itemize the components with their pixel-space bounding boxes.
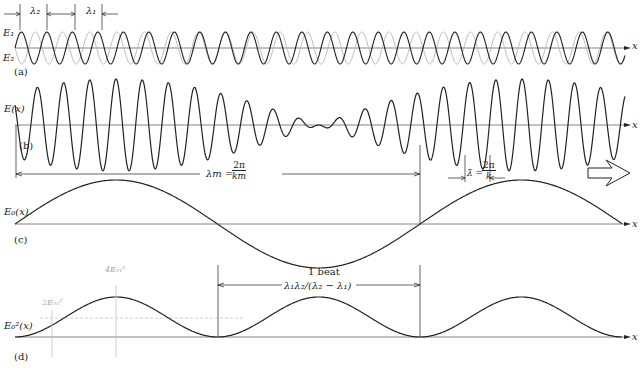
x-axis-c-arrowhead bbox=[624, 222, 631, 226]
x-axis-label-b: x bbox=[632, 119, 638, 130]
lambda-m-den: km bbox=[232, 171, 246, 181]
lambda-m-fraction: 2π km bbox=[232, 160, 246, 181]
propagation-arrow-icon bbox=[588, 160, 630, 186]
e2-label: E₂ bbox=[3, 52, 14, 63]
beat-formula: λ₁λ₂/(λ₂ − λ₁) bbox=[284, 280, 351, 291]
x-axis-b-arrowhead bbox=[624, 123, 631, 127]
arrow-icon bbox=[102, 12, 118, 16]
lambda-m-num: 2π bbox=[232, 160, 246, 171]
panel-b-label: (b) bbox=[19, 140, 33, 151]
lambda1-label: λ₁ bbox=[86, 5, 96, 16]
e0sq-label: E₀²(x) bbox=[4, 320, 33, 331]
panel-d-label: (d) bbox=[14, 351, 28, 362]
ex-label: E(x) bbox=[4, 103, 25, 114]
e1-label: E₁ bbox=[3, 27, 14, 38]
arrow-icon bbox=[4, 12, 20, 16]
arrow-icon bbox=[47, 12, 75, 16]
lambda-m-label: λm = bbox=[206, 168, 233, 179]
x-axis-label-c: x bbox=[632, 218, 638, 229]
x-axis-label-d: x bbox=[632, 331, 638, 342]
lambda-bar-den: k̄ bbox=[482, 171, 496, 181]
lambda-bar-num: 2π bbox=[482, 160, 496, 171]
panel-a-label: (a) bbox=[14, 66, 28, 77]
peak-intensity-label: 4E₀₁² bbox=[105, 265, 126, 274]
lambda2-label: λ₂ bbox=[30, 5, 40, 16]
beats-diagram: λ₂ λ₁ E₁ E₂ (a) x E(x) (b) x λm = 2π km … bbox=[0, 0, 642, 368]
lambda-bar-fraction: 2π k̄ bbox=[482, 160, 496, 181]
wave-plots bbox=[0, 0, 642, 368]
x-axis-d-arrowhead bbox=[624, 335, 631, 339]
panel-c-label: (c) bbox=[14, 234, 27, 245]
lambda-bar-label: λ̄ = bbox=[467, 168, 483, 178]
mean-intensity-label: 2E₀₁² bbox=[42, 298, 63, 307]
e0x-label: E₀(x) bbox=[4, 206, 29, 217]
x-axis-a-arrowhead bbox=[624, 46, 631, 50]
x-axis-label-a: x bbox=[632, 40, 638, 51]
wave-intensity bbox=[15, 297, 622, 337]
beat-label: 1 beat bbox=[308, 266, 340, 277]
